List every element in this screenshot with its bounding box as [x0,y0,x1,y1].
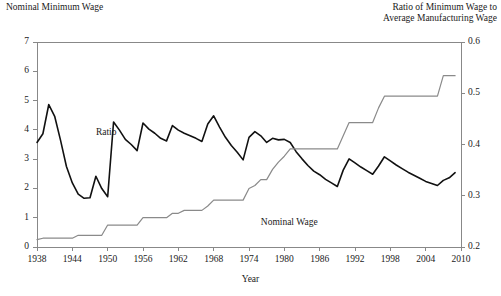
x-tick-label: 2004 [406,254,446,264]
series-annotation: Ratio [96,127,117,137]
x-tick-label: 1986 [300,254,340,264]
x-tick-label: 2010 [441,254,481,264]
left-tick-label: 6 [11,65,29,75]
x-tick-label: 1962 [158,254,198,264]
x-tick-label: 1998 [370,254,410,264]
right-tick-label: 0.4 [468,139,490,149]
x-tick-label: 1968 [194,254,234,264]
left-tick-label: 1 [11,212,29,222]
plot-area [0,0,501,296]
axis-lines [37,42,461,247]
right-tick-label: 0.3 [468,190,490,200]
x-axis-title: Year [0,274,501,285]
axis-ticks [33,42,465,251]
left-tick-label: 5 [11,95,29,105]
x-tick-label: 1992 [335,254,375,264]
right-tick-label: 0.5 [468,87,490,97]
left-tick-label: 0 [11,241,29,251]
series-line-ratio [37,105,455,199]
chart-container: Nominal Minimum Wage Ratio of Minimum Wa… [0,0,501,296]
x-tick-label: 1938 [17,254,57,264]
series-line-nominal-wage [37,76,455,240]
series-annotation: Nominal Wage [261,217,318,227]
x-tick-label: 1974 [229,254,269,264]
x-tick-label: 1950 [88,254,128,264]
right-tick-label: 0.6 [468,36,490,46]
left-tick-label: 7 [11,36,29,46]
series-paths [37,76,455,240]
x-tick-label: 1956 [123,254,163,264]
right-tick-label: 0.2 [468,241,490,251]
left-tick-label: 4 [11,124,29,134]
x-tick-label: 1980 [264,254,304,264]
left-tick-label: 3 [11,153,29,163]
left-tick-label: 2 [11,182,29,192]
x-tick-label: 1944 [52,254,92,264]
